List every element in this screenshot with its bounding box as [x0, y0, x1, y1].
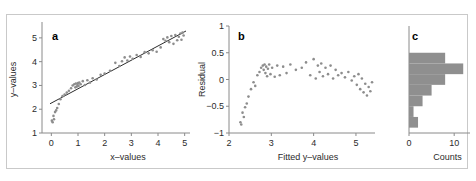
panel-a-label: a	[52, 26, 58, 44]
svg-text:5: 5	[353, 138, 358, 148]
svg-text:4: 4	[155, 138, 160, 148]
svg-text:Residual: Residual	[197, 62, 207, 97]
svg-text:3: 3	[32, 80, 37, 90]
panel-a-svg: 12345012345x–valuesy–values	[0, 0, 195, 181]
svg-text:1: 1	[32, 128, 37, 138]
svg-text:2: 2	[32, 104, 37, 114]
panel-b-svg: −1−0.500.512345Fitted y–valuesResidual	[195, 0, 380, 181]
svg-text:5: 5	[182, 138, 187, 148]
svg-text:5: 5	[32, 33, 37, 43]
panel-c-label: c	[412, 26, 418, 44]
svg-text:−1: −1	[214, 128, 224, 138]
svg-text:4: 4	[311, 138, 316, 148]
svg-text:0: 0	[406, 138, 411, 148]
svg-text:Counts: Counts	[433, 152, 462, 162]
svg-text:1: 1	[219, 21, 224, 31]
svg-text:0: 0	[49, 138, 54, 148]
svg-text:x–values: x–values	[110, 152, 146, 162]
figure-container: 12345012345x–valuesy–values a −1−0.500.5…	[0, 0, 476, 181]
svg-text:3: 3	[269, 138, 274, 148]
svg-text:−0.5: −0.5	[206, 101, 224, 111]
panel-a-scatter: 12345012345x–valuesy–values a	[0, 0, 195, 181]
panel-c-histogram: 010Counts c	[380, 0, 476, 181]
svg-text:10: 10	[449, 138, 459, 148]
panel-c-svg: 010Counts	[380, 0, 476, 181]
svg-text:1: 1	[75, 138, 80, 148]
panel-b-residuals: −1−0.500.512345Fitted y–valuesResidual b	[195, 0, 380, 181]
svg-text:2: 2	[226, 138, 231, 148]
svg-text:2: 2	[102, 138, 107, 148]
svg-text:Fitted y–values: Fitted y–values	[278, 152, 339, 162]
svg-text:3: 3	[129, 138, 134, 148]
svg-text:0: 0	[219, 75, 224, 85]
panel-b-label: b	[238, 26, 245, 44]
svg-text:4: 4	[32, 57, 37, 67]
svg-text:0.5: 0.5	[211, 48, 224, 58]
svg-text:y–values: y–values	[8, 61, 18, 97]
